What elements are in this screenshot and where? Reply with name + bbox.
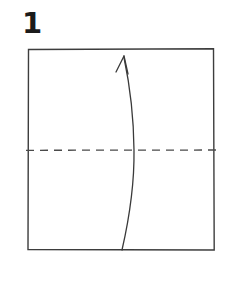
origami-figure-svg bbox=[0, 0, 236, 292]
origami-diagram: 1 bbox=[0, 0, 236, 292]
